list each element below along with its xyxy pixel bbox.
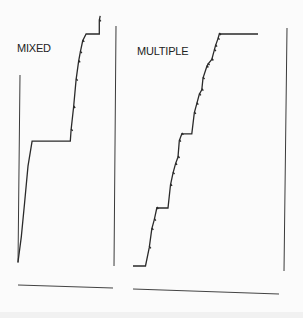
- trace-multiple: [133, 34, 258, 266]
- left-axis-mixed: [18, 75, 20, 263]
- right-axis-mixed: [114, 26, 116, 266]
- figure: MIXED MULTIPLE: [0, 0, 303, 318]
- panel-mixed: MIXED: [17, 16, 116, 288]
- panel-title-multiple: MULTIPLE: [137, 45, 188, 57]
- panel-title-mixed: MIXED: [17, 42, 51, 54]
- panel-multiple: MULTIPLE: [133, 28, 287, 294]
- step-marks-multiple: [149, 33, 221, 248]
- baseline-multiple: [133, 289, 279, 294]
- baseline-mixed: [18, 285, 113, 288]
- scan-edge: [0, 312, 303, 318]
- step-marks-mixed: [71, 19, 101, 131]
- right-axis-multiple: [284, 28, 287, 271]
